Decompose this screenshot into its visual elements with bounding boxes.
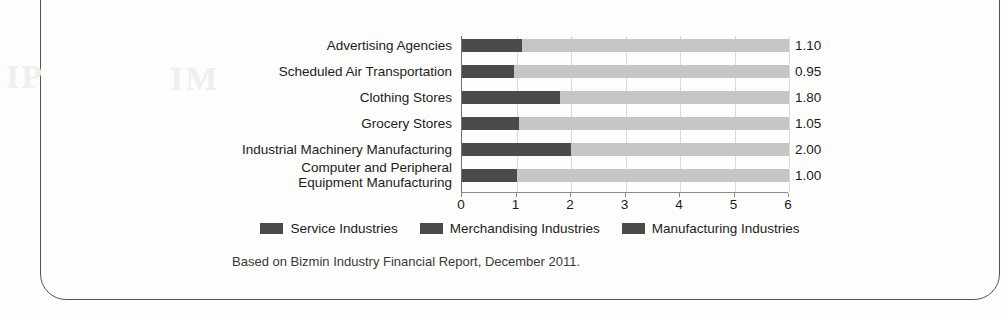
category-label-line: Equipment Manufacturing: [150, 176, 452, 191]
scanned-page: IP IM Advertising AgenciesScheduled Air …: [0, 0, 1006, 320]
plot-area: [461, 36, 788, 192]
category-label: Clothing Stores: [150, 91, 452, 106]
chart-legend: Service IndustriesMerchandising Industri…: [240, 219, 820, 237]
value-label: 2.00: [795, 142, 843, 157]
category-label: Industrial Machinery Manufacturing: [150, 143, 452, 158]
legend-item[interactable]: Merchandising Industries: [420, 221, 600, 236]
legend-swatch-icon: [622, 223, 645, 234]
x-tick-label-1: 1: [506, 197, 526, 212]
value-label: 1.00: [795, 168, 843, 183]
x-tick-label-0: 0: [451, 197, 471, 212]
value-label: 0.95: [795, 64, 843, 79]
legend-swatch-icon: [420, 223, 443, 234]
bar-fill: [462, 65, 514, 78]
source-note: Based on Bizmin Industry Financial Repor…: [232, 254, 580, 269]
category-label: Advertising Agencies: [150, 39, 452, 54]
category-label: Grocery Stores: [150, 117, 452, 132]
legend-label: Merchandising Industries: [450, 221, 600, 236]
legend-label: Manufacturing Industries: [652, 221, 800, 236]
x-tick-label-4: 4: [669, 197, 689, 212]
category-label: Scheduled Air Transportation: [150, 65, 452, 80]
category-axis-labels: Advertising AgenciesScheduled Air Transp…: [150, 36, 458, 192]
x-tick-label-3: 3: [615, 197, 635, 212]
bar-row: [462, 117, 789, 130]
category-label-line: Computer and Peripheral: [301, 160, 452, 175]
category-label-line: Grocery Stores: [361, 116, 452, 131]
bar-row: [462, 143, 789, 156]
category-label-line: Clothing Stores: [360, 90, 452, 105]
legend-item[interactable]: Service Industries: [260, 221, 397, 236]
x-axis: 0123456: [461, 192, 788, 212]
bar-row: [462, 39, 789, 52]
bar-fill: [462, 39, 522, 52]
category-label-line: Scheduled Air Transportation: [279, 64, 452, 79]
x-tick-label-6: 6: [778, 197, 798, 212]
legend-item[interactable]: Manufacturing Industries: [622, 221, 800, 236]
value-label: 1.80: [795, 90, 843, 105]
bar-fill: [462, 169, 517, 182]
x-tick-label-2: 2: [560, 197, 580, 212]
bar-row: [462, 91, 789, 104]
gridline-6: [789, 36, 790, 192]
value-label: 1.10: [795, 38, 843, 53]
category-label: Computer and PeripheralEquipment Manufac…: [150, 161, 452, 190]
legend-label: Service Industries: [290, 221, 397, 236]
bar-row: [462, 169, 789, 182]
bar-fill: [462, 143, 571, 156]
legend-swatch-icon: [260, 223, 283, 234]
bar-fill: [462, 117, 519, 130]
bar-chart: Advertising AgenciesScheduled Air Transp…: [0, 0, 1006, 320]
value-label: 1.05: [795, 116, 843, 131]
x-tick-label-5: 5: [724, 197, 744, 212]
category-label-line: Advertising Agencies: [327, 38, 452, 53]
bar-row: [462, 65, 789, 78]
category-label-line: Industrial Machinery Manufacturing: [242, 142, 452, 157]
value-labels-column: 1.100.951.801.052.001.00: [795, 36, 855, 192]
bar-fill: [462, 91, 560, 104]
